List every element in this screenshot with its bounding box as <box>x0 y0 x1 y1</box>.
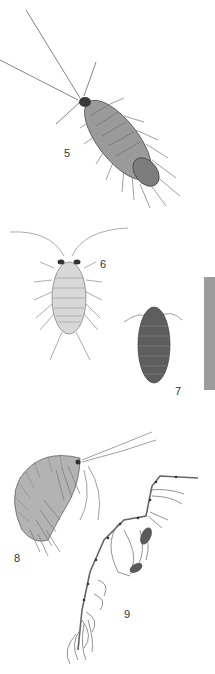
figure-8-amphipod <box>14 432 156 556</box>
page-edge-thumb-tab <box>204 277 215 390</box>
figure-label-8: 8 <box>14 552 20 564</box>
figure-label-9: 9 <box>124 608 130 620</box>
figure-9-skeleton-shrimp <box>67 476 198 664</box>
figure-5-sea-slater <box>0 10 180 208</box>
illustration-plate: 5 6 7 8 9 <box>0 0 215 674</box>
figure-label-5: 5 <box>64 147 70 159</box>
figure-label-7: 7 <box>175 385 181 397</box>
figure-6-pale-isopod <box>10 228 128 360</box>
figure-7-dark-woodlouse <box>124 307 182 383</box>
creature-illustrations <box>0 0 215 674</box>
figure-label-6: 6 <box>100 258 106 270</box>
